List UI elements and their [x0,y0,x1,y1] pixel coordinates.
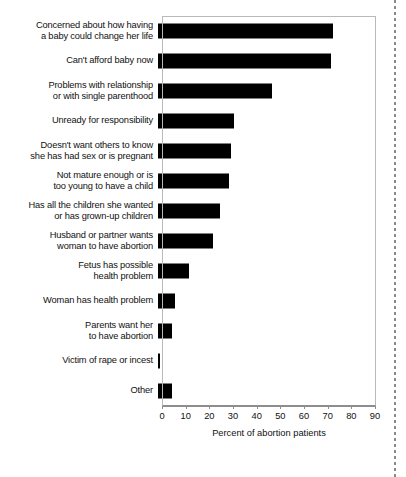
bar-track [158,136,371,166]
bar [158,384,172,399]
tick-mark [209,406,210,409]
table-row: Other [0,376,380,406]
table-row: Fetus has possible health problem [0,256,380,286]
tick-mark [186,406,187,409]
category-label: Woman has health problem [0,295,158,306]
bar-track [158,106,371,136]
bar-track [158,196,371,226]
table-row: Victim of rape or incest [0,346,380,376]
bar [158,54,331,69]
table-row: Husband or partner wants woman to have a… [0,226,380,256]
category-label: Unready for responsibility [0,115,158,126]
category-label: Parents want her to have abortion [0,320,158,343]
table-row: Problems with relationship or with singl… [0,76,380,106]
bar-track [158,16,371,46]
category-label: Problems with relationship or with singl… [0,80,158,103]
category-label: Doesn't want others to know she has had … [0,140,158,163]
bar [158,234,213,249]
bar-chart-figure: Concerned about how having a baby could … [0,0,380,477]
tick-label: 30 [228,411,238,422]
tick-mark [304,406,305,409]
bar-track [158,46,371,76]
bar [158,204,220,219]
table-row: Doesn't want others to know she has had … [0,136,380,166]
tick-mark [162,406,163,409]
bar-track [158,226,371,256]
bar [158,354,160,369]
category-label: Victim of rape or incest [0,355,158,366]
tick-label: 0 [159,411,164,422]
bar [158,324,172,339]
bar-track [158,256,371,286]
tick-mark [280,406,281,409]
category-label: Other [0,385,158,396]
bar-track [158,316,371,346]
bar [158,84,272,99]
bar-track [158,76,371,106]
tick-label: 40 [252,411,262,422]
table-row: Has all the children she wanted or has g… [0,196,380,226]
table-row: Not mature enough or is too young to hav… [0,166,380,196]
category-label: Not mature enough or is too young to hav… [0,170,158,193]
category-label: Concerned about how having a baby could … [0,20,158,43]
bar [158,264,189,279]
bar-track [158,166,371,196]
bar-track [158,346,371,376]
table-row: Concerned about how having a baby could … [0,16,380,46]
bar [158,174,229,189]
tick-label: 60 [299,411,309,422]
bar-track [158,286,371,316]
bar [158,144,231,159]
table-row: Can't afford baby now [0,46,380,76]
table-row: Parents want her to have abortion [0,316,380,346]
tick-label: 90 [370,411,380,422]
bar [158,114,234,129]
table-row: Unready for responsibility [0,106,380,136]
tick-mark [257,406,258,409]
tick-mark [375,406,376,409]
category-label: Has all the children she wanted or has g… [0,200,158,223]
tick-mark [328,406,329,409]
chart-rows: Concerned about how having a baby could … [0,16,380,406]
tick-label: 80 [346,411,356,422]
bar-track [158,376,371,406]
table-row: Woman has health problem [0,286,380,316]
x-axis-label: Percent of abortion patients [162,428,376,438]
page-perforation-line [394,0,396,477]
tick-label: 10 [181,411,191,422]
bar [158,24,333,39]
category-label: Fetus has possible health problem [0,260,158,283]
tick-label: 70 [323,411,333,422]
tick-label: 20 [204,411,214,422]
tick-label: 50 [275,411,285,422]
tick-mark [351,406,352,409]
bar [158,294,175,309]
category-label: Husband or partner wants woman to have a… [0,230,158,253]
category-label: Can't afford baby now [0,55,158,66]
tick-mark [233,406,234,409]
